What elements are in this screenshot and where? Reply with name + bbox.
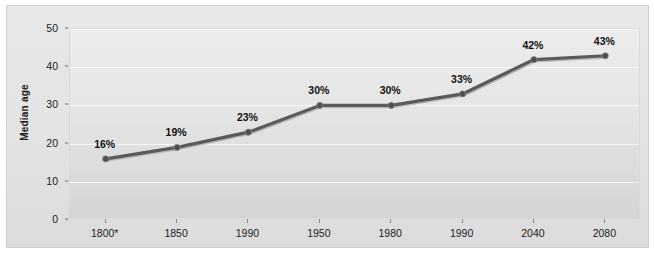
data-point-label: 30%	[308, 84, 329, 96]
x-axis-tick-label: 1800*	[91, 227, 118, 239]
data-point-marker	[174, 144, 180, 150]
x-axis-tick-label: 2080	[593, 227, 616, 239]
y-axis-tick-label: 50	[32, 22, 58, 34]
x-axis-tick-mark	[105, 219, 106, 223]
y-axis-tick-label: 10	[32, 175, 58, 187]
chart-panel: Median age 01020304050 1800*185019901950…	[6, 5, 649, 248]
y-axis-tick-label: 20	[32, 137, 58, 149]
x-axis-tick-label: 1850	[164, 227, 187, 239]
data-point-label: 19%	[166, 126, 187, 138]
x-axis-tick-mark	[533, 219, 534, 223]
y-axis-tick-label: 40	[32, 60, 58, 72]
data-point-label: 30%	[380, 84, 401, 96]
x-axis-tick-mark	[604, 219, 605, 223]
x-axis-tick-label: 1980	[379, 227, 402, 239]
y-axis-title-text: Median age	[19, 84, 30, 140]
x-axis-tick-mark	[319, 219, 320, 223]
x-axis-tick-label: 1990	[236, 227, 259, 239]
data-point-label: 33%	[451, 73, 472, 85]
data-point-marker	[388, 102, 394, 108]
data-point-marker	[317, 102, 323, 108]
x-axis-tick-label: 1990	[450, 227, 473, 239]
data-point-marker	[602, 53, 608, 59]
chart-figure: Median age 01020304050 1800*185019901950…	[0, 0, 655, 253]
x-axis-tick-mark	[390, 219, 391, 223]
cut-off-caption	[0, 0, 655, 4]
data-point-label: 42%	[522, 39, 543, 51]
y-axis-tick-mark	[65, 104, 68, 105]
x-axis-tick-mark	[462, 219, 463, 223]
data-point-label: 23%	[237, 111, 258, 123]
data-point-marker	[531, 56, 537, 62]
y-axis-tick-mark	[65, 142, 68, 143]
y-axis-tick-mark	[65, 219, 68, 220]
x-axis-tick-label: 1950	[307, 227, 330, 239]
data-point-marker	[459, 91, 465, 97]
y-axis-tick-label: 0	[32, 213, 58, 225]
y-axis-title: Median age	[15, 6, 33, 218]
data-point-marker	[103, 156, 109, 162]
y-axis-tick-label: 30	[32, 98, 58, 110]
plot-area	[69, 28, 640, 219]
data-series-line	[70, 29, 641, 220]
y-axis-tick-mark	[65, 28, 68, 29]
data-point-label: 43%	[594, 35, 615, 47]
x-axis-tick-mark	[176, 219, 177, 223]
y-axis-tick-mark	[65, 66, 68, 67]
y-axis-tick-mark	[65, 180, 68, 181]
series-line-shadow	[107, 57, 607, 160]
data-point-marker	[245, 129, 251, 135]
x-axis-tick-mark	[247, 219, 248, 223]
x-axis-tick-label: 2040	[521, 227, 544, 239]
data-point-label: 16%	[94, 138, 115, 150]
